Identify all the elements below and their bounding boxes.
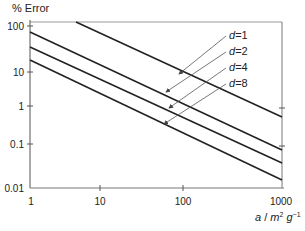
x-axis: 1 10 100 1000 a / m2 g−1 bbox=[28, 185, 300, 223]
series-d1 bbox=[76, 22, 282, 117]
error-chart: 100 10 1 0.1 0.01 % Error 1 10 100 1000 … bbox=[0, 0, 305, 231]
leader-arrows bbox=[164, 36, 226, 124]
y-tick-100: 100 bbox=[7, 21, 24, 32]
series-labels: d=1 d=2 d=4 d=8 bbox=[229, 29, 248, 89]
label-d8: d=8 bbox=[229, 77, 248, 89]
y-tick-10: 10 bbox=[13, 67, 25, 78]
y-axis-title: % Error bbox=[12, 2, 50, 14]
label-d2: d=2 bbox=[229, 45, 248, 57]
y-tick-0.1: 0.1 bbox=[10, 139, 24, 150]
x-tick-1: 1 bbox=[28, 196, 34, 207]
x-tick-10: 10 bbox=[94, 196, 106, 207]
label-d1: d=1 bbox=[229, 29, 248, 41]
x-axis-title: a / m2 g−1 bbox=[255, 211, 301, 223]
y-tick-0.01: 0.01 bbox=[5, 183, 25, 194]
x-tick-1000: 1000 bbox=[270, 196, 293, 207]
y-tick-1: 1 bbox=[18, 101, 24, 112]
label-d4: d=4 bbox=[229, 61, 248, 73]
x-tick-100: 100 bbox=[175, 196, 192, 207]
